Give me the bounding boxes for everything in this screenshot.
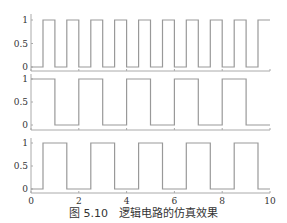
subplot-2: 00.51: [14, 74, 270, 130]
y-tick-label: 0: [22, 62, 28, 72]
subplot-3: 00.51: [14, 138, 270, 194]
y-tick-label: 1: [22, 15, 28, 25]
y-tick-label: 0.5: [14, 97, 29, 107]
figure-caption: 图 5.10 逻辑电路的仿真效果: [0, 204, 287, 220]
chart: 00.5100.5100.510246810: [0, 0, 287, 205]
y-tick-label: 1: [22, 74, 28, 84]
y-tick-label: 0.5: [14, 39, 29, 49]
y-tick-label: 0.5: [14, 161, 29, 171]
subplot-1: 00.51: [14, 14, 270, 72]
y-tick-label: 1: [22, 138, 28, 148]
signal-line: [31, 20, 270, 67]
signal-line: [31, 143, 270, 189]
signal-line: [31, 79, 270, 125]
y-tick-label: 0: [22, 120, 28, 130]
y-tick-label: 0: [22, 184, 28, 194]
